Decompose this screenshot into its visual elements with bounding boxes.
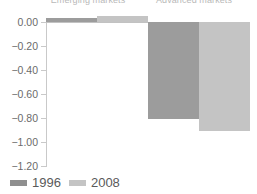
category-label-advanced-markets: Advanced markets [142,0,246,5]
y-tick-label: −1.20 [0,161,38,171]
y-tick-mark [41,70,46,71]
y-tick-mark [41,166,46,167]
bar-1996-emerging-markets [46,18,97,22]
y-tick-label: −0.60 [0,89,38,99]
bar-chart: Emerging markets Advanced markets 0.00 −… [0,0,257,194]
y-tick-label: −0.80 [0,113,38,123]
bar-2008-emerging-markets [97,16,148,22]
category-label-emerging-markets: Emerging markets [36,0,140,5]
bar-1996-advanced-markets [148,22,199,119]
y-tick-mark [41,22,46,23]
legend-item-1996: 1996 [10,176,61,189]
y-tick-mark [41,46,46,47]
legend-label: 2008 [91,176,120,189]
y-axis-line [46,22,47,167]
legend-item-2008: 2008 [69,176,120,189]
y-tick-label: 0.00 [0,17,38,27]
y-tick-mark [41,142,46,143]
y-tick-label: −0.40 [0,65,38,75]
y-tick-label: −1.00 [0,137,38,147]
y-tick-mark [41,118,46,119]
legend: 1996 2008 [10,176,120,189]
legend-swatch-icon [10,180,27,186]
legend-swatch-icon [69,180,86,186]
legend-label: 1996 [32,176,61,189]
y-tick-label: −0.20 [0,41,38,51]
y-tick-mark [41,94,46,95]
bar-2008-advanced-markets [199,22,250,131]
